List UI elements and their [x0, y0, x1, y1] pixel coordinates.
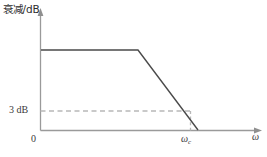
origin-label: 0	[31, 134, 36, 144]
cutoff-frequency-label: ωc	[181, 134, 191, 146]
cutoff-omega-glyph: ω	[181, 133, 188, 144]
y-axis-label: 衰减/dB	[3, 4, 39, 15]
plot-canvas	[0, 0, 267, 157]
x-axis-label: ω	[252, 132, 259, 142]
attenuation-frequency-figure: 衰减/dB 3 dB 0 ωc ω	[0, 0, 267, 157]
threshold-label: 3 dB	[9, 105, 28, 115]
response-curve	[41, 50, 198, 130]
cutoff-subscript: c	[188, 138, 191, 146]
